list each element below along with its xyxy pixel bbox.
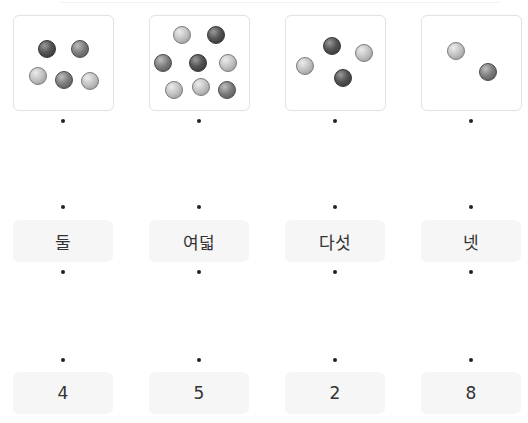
ball-icon — [189, 54, 207, 72]
ball-icon — [323, 37, 341, 55]
ball-icon — [154, 54, 172, 72]
connect-dot[interactable] — [469, 119, 473, 123]
connect-dot[interactable] — [333, 270, 337, 274]
ball-icon — [55, 71, 73, 89]
connect-dot[interactable] — [333, 119, 337, 123]
word-card: 다섯 — [285, 220, 385, 262]
word-card: 넷 — [421, 220, 521, 262]
ball-box-4 — [421, 15, 522, 111]
number-card: 8 — [421, 372, 521, 414]
connect-dot[interactable] — [197, 358, 201, 362]
ball-icon — [218, 81, 236, 99]
connect-dot[interactable] — [333, 358, 337, 362]
connect-dot[interactable] — [469, 358, 473, 362]
connect-dot[interactable] — [333, 205, 337, 209]
ball-icon — [479, 63, 497, 81]
ball-icon — [219, 54, 237, 72]
number-card: 5 — [149, 372, 249, 414]
ball-icon — [81, 72, 99, 90]
connect-dot[interactable] — [61, 270, 65, 274]
number-card: 4 — [13, 372, 113, 414]
ball-box-3 — [285, 15, 386, 111]
connect-dot[interactable] — [469, 270, 473, 274]
ball-icon — [207, 26, 225, 44]
connect-dot[interactable] — [61, 358, 65, 362]
connect-dot[interactable] — [469, 205, 473, 209]
word-card: 둘 — [13, 220, 113, 262]
top-divider — [60, 2, 500, 3]
ball-icon — [38, 40, 56, 58]
ball-icon — [334, 69, 352, 87]
ball-box-2 — [149, 15, 250, 111]
ball-icon — [447, 42, 465, 60]
ball-icon — [355, 44, 373, 62]
ball-icon — [173, 26, 191, 44]
ball-icon — [165, 81, 183, 99]
ball-icon — [192, 78, 210, 96]
connect-dot[interactable] — [197, 119, 201, 123]
ball-icon — [296, 57, 314, 75]
connect-dot[interactable] — [61, 119, 65, 123]
connect-dot[interactable] — [197, 205, 201, 209]
connect-dot[interactable] — [197, 270, 201, 274]
ball-icon — [29, 67, 47, 85]
number-card: 2 — [285, 372, 385, 414]
ball-box-1 — [13, 15, 114, 111]
ball-icon — [71, 40, 89, 58]
connect-dot[interactable] — [61, 205, 65, 209]
word-card: 여덟 — [149, 220, 249, 262]
